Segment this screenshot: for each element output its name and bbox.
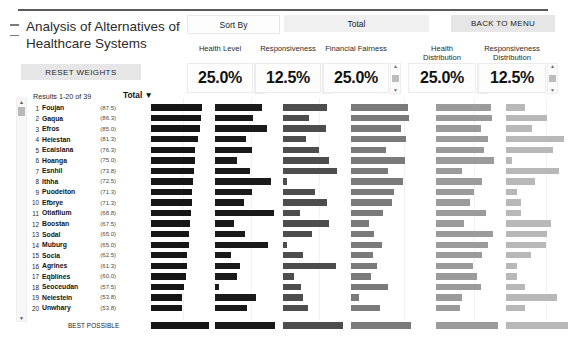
bar	[283, 189, 315, 195]
bar	[351, 322, 411, 329]
reset-weights-button[interactable]: RESET WEIGHTS	[21, 64, 141, 80]
criterion-spinner[interactable]: ▲▼	[547, 63, 558, 94]
spinner-up-icon[interactable]: ▲	[393, 64, 398, 69]
table-row[interactable]: 11Otiaflium(68.8)	[28, 208, 558, 219]
table-row[interactable]: 19Neiestein(53.8)	[28, 293, 558, 304]
bar	[351, 157, 405, 163]
bar	[215, 189, 252, 195]
bar	[151, 104, 202, 110]
bar	[506, 125, 532, 131]
row-total-score: (87.5)	[91, 105, 116, 111]
bar	[215, 252, 231, 258]
row-total-score: (72.5)	[91, 178, 116, 184]
table-row[interactable]: 12Boostan(67.5)	[28, 219, 558, 230]
bar	[151, 220, 190, 226]
bar	[215, 322, 275, 329]
best-possible-label: BEST POSSIBLE	[68, 322, 119, 329]
bar	[436, 210, 486, 216]
row-rank: 2	[28, 115, 39, 122]
row-name: Agrines	[42, 262, 67, 269]
bar	[283, 242, 287, 248]
bar	[215, 284, 219, 290]
spinner-down-icon[interactable]: ▼	[393, 88, 398, 93]
table-row[interactable]: 14Muburg(65.0)	[28, 240, 558, 251]
bar	[283, 199, 327, 205]
row-rank: 13	[28, 231, 39, 238]
bar	[151, 242, 189, 248]
criterion-weight-value: 12.5%	[266, 69, 310, 87]
row-name: Muburg	[42, 241, 67, 248]
row-name: Efbrye	[42, 199, 63, 206]
bar	[436, 115, 492, 121]
row-total-score: (53.8)	[91, 305, 116, 311]
collapse-icon[interactable]	[10, 24, 20, 42]
row-name: Socia	[42, 252, 60, 259]
sort-by-label: Sort By	[187, 15, 280, 34]
bar	[351, 305, 380, 311]
criterion-weight-field[interactable]: 25.0%	[323, 63, 389, 93]
row-rank: 19	[28, 294, 39, 301]
table-row[interactable]: 7Esnhil(73.8)	[28, 166, 558, 177]
row-rank: 9	[28, 189, 39, 196]
results-scrollbar[interactable]: ▲ ▼	[16, 98, 27, 322]
spinner-up-icon[interactable]: ▲	[550, 64, 555, 69]
criterion-spinner[interactable]: ▲▼	[390, 63, 401, 94]
total-column-header[interactable]: Total ▼	[123, 90, 153, 100]
row-total-score: (57.5)	[91, 284, 116, 290]
table-row[interactable]: 9Puodeiton(71.3)	[28, 187, 558, 198]
criterion-weight-field[interactable]: 12.5%	[255, 63, 321, 93]
table-row[interactable]: 1Foujan(87.5)	[28, 103, 558, 114]
table-row[interactable]: 2Gaqua(86.3)	[28, 114, 558, 125]
bar	[436, 273, 477, 279]
criterion-weight-value: 12.5%	[490, 69, 534, 87]
bar	[351, 125, 401, 131]
bar	[436, 252, 482, 258]
table-row[interactable]: 3Efros(85.0)	[28, 124, 558, 135]
table-row[interactable]: 20Unwhary(53.8)	[28, 303, 558, 314]
bar	[436, 168, 462, 174]
bar	[151, 199, 192, 205]
scroll-thumb[interactable]	[18, 107, 25, 116]
table-row[interactable]: 5Ecaislana(76.3)	[28, 145, 558, 156]
row-total-score: (62.5)	[91, 252, 116, 258]
bar	[215, 220, 234, 226]
row-total-score: (75.0)	[91, 157, 116, 163]
bar	[436, 220, 464, 226]
bar	[151, 168, 194, 174]
table-row[interactable]: 18Seoceudan(57.5)	[28, 282, 558, 293]
row-name: Eqblines	[42, 273, 70, 280]
table-row[interactable]: 16Agrines(61.3)	[28, 261, 558, 272]
table-row[interactable]: 8Ithha(72.5)	[28, 177, 558, 188]
bar	[215, 147, 252, 153]
back-to-menu-button[interactable]: BACK TO MENU	[451, 15, 555, 32]
table-row[interactable]: 10Efbrye(71.3)	[28, 198, 558, 209]
table-row[interactable]: 13Sodal(65.0)	[28, 230, 558, 241]
bar	[215, 168, 250, 174]
bar	[151, 284, 184, 290]
table-row[interactable]: 15Socia(62.5)	[28, 251, 558, 262]
criterion-weight-field[interactable]: 25.0%	[408, 63, 476, 93]
bar	[215, 263, 240, 269]
criterion-5: ResponsivenessDistribution12.5%	[478, 44, 546, 93]
row-name: Otiaflium	[42, 209, 71, 216]
spinner-thumb[interactable]	[392, 75, 399, 82]
bar	[506, 168, 559, 174]
criterion-2: Responsiveness12.5%	[255, 44, 321, 93]
criterion-weight-field[interactable]: 25.0%	[187, 63, 253, 93]
spinner-thumb[interactable]	[549, 75, 556, 82]
spinner-down-icon[interactable]: ▼	[550, 88, 555, 93]
criterion-weight-field[interactable]: 12.5%	[478, 63, 546, 93]
table-row[interactable]: 17Eqblines(60.0)	[28, 272, 558, 283]
scroll-down-icon[interactable]: ▼	[17, 315, 26, 321]
row-name: Unwhary	[42, 304, 71, 311]
criterion-label: ResponsivenessDistribution	[478, 44, 546, 63]
bar	[151, 147, 195, 153]
sort-by-select[interactable]: Total	[284, 15, 429, 32]
bar	[351, 252, 373, 258]
table-row[interactable]: 6Hoanga(75.0)	[28, 156, 558, 167]
bar	[151, 322, 209, 329]
scroll-up-icon[interactable]: ▲	[17, 99, 26, 105]
table-row[interactable]: 4Heiestan(81.3)	[28, 135, 558, 146]
bar	[283, 252, 303, 258]
